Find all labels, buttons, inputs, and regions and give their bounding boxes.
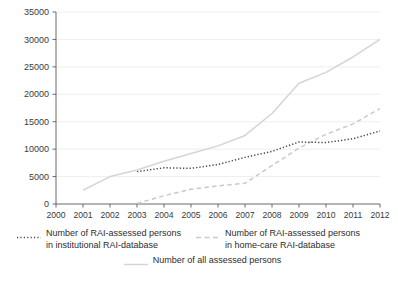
legend-label-institutional-line1: Number of RAI-assessed persons <box>46 228 181 240</box>
x-tick-label: 2002 <box>100 210 119 220</box>
legend-label-all-persons: Number of all assessed persons <box>153 255 282 267</box>
x-tick-label: 2009 <box>289 210 308 220</box>
legend-item-institutional[interactable]: Number of RAI-assessed persons in instit… <box>16 228 181 251</box>
y-tick-label: 30000 <box>24 35 49 45</box>
axes <box>56 12 380 204</box>
x-axis-ticks: 2000200120022003200420052006200720082009… <box>46 204 389 220</box>
x-tick-label: 2008 <box>262 210 281 220</box>
y-axis-ticks: 05000100001500020000250003000035000 <box>24 7 56 209</box>
x-tick-label: 2005 <box>181 210 200 220</box>
y-tick-label: 10000 <box>24 144 49 154</box>
legend-label-home-care: Number of RAI-assessed persons in home-c… <box>225 228 360 251</box>
chart-figure: 05000100001500020000250003000035000 2000… <box>0 0 398 287</box>
series-line <box>137 109 380 204</box>
chart-legend: Number of RAI-assessed persons in instit… <box>0 228 398 287</box>
dashed-line-swatch-icon <box>195 232 221 243</box>
y-tick-label: 15000 <box>24 117 49 127</box>
x-tick-label: 2001 <box>73 210 92 220</box>
x-tick-label: 2007 <box>235 210 254 220</box>
y-tick-label: 0 <box>44 199 49 209</box>
legend-label-institutional-line2: in institutional RAI-database <box>46 240 181 252</box>
x-tick-label: 2006 <box>208 210 227 220</box>
gridlines <box>56 12 380 177</box>
y-tick-label: 20000 <box>24 89 49 99</box>
legend-row-primary: Number of RAI-assessed persons in instit… <box>0 228 398 251</box>
x-tick-label: 2011 <box>344 210 363 220</box>
x-tick-label: 2010 <box>316 210 335 220</box>
legend-label-all-persons-line1: Number of all assessed persons <box>153 255 282 267</box>
series-line <box>83 39 380 190</box>
legend-row-secondary: Number of all assessed persons <box>0 255 398 270</box>
x-tick-label: 2012 <box>370 210 389 220</box>
legend-label-home-care-line1: Number of RAI-assessed persons <box>225 228 360 240</box>
x-tick-label: 2004 <box>154 210 173 220</box>
legend-item-all-persons[interactable]: Number of all assessed persons <box>123 255 282 270</box>
y-tick-label: 35000 <box>24 7 49 17</box>
y-tick-label: 25000 <box>24 62 49 72</box>
legend-item-home-care[interactable]: Number of RAI-assessed persons in home-c… <box>195 228 360 251</box>
y-tick-label: 5000 <box>29 172 49 182</box>
legend-label-home-care-line2: in home-care RAI-database <box>225 240 360 252</box>
solid-line-swatch-icon <box>123 259 149 270</box>
series-line <box>137 131 380 172</box>
x-tick-label: 2003 <box>127 210 146 220</box>
legend-label-institutional: Number of RAI-assessed persons in instit… <box>46 228 181 251</box>
x-tick-label: 2000 <box>46 210 65 220</box>
dotted-line-swatch-icon <box>16 232 42 243</box>
